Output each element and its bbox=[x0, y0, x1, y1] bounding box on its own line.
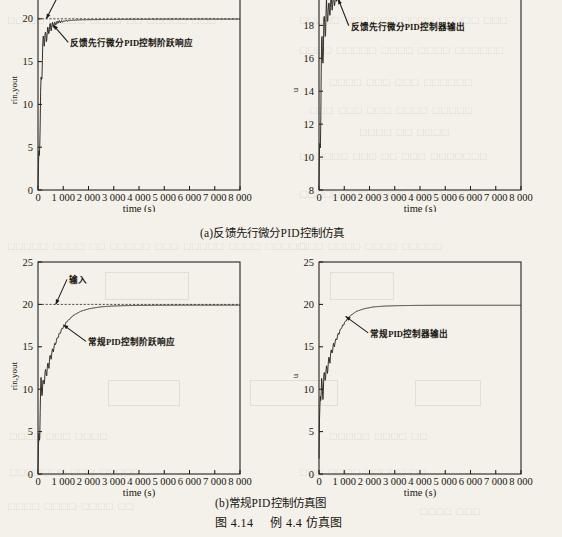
chart-a-right-svg: 8101214161820 01 0002 0003 0004 0005 000… bbox=[281, 0, 562, 212]
y-axis-ticks: 0510152025 bbox=[304, 257, 324, 480]
plot-frame bbox=[319, 262, 521, 474]
x-axis-label: time (s) bbox=[123, 203, 156, 212]
x-tick-label: 8 000 bbox=[228, 192, 252, 203]
x-tick-label: 2 000 bbox=[77, 476, 101, 487]
y-tick-label: 20 bbox=[304, 299, 315, 310]
y-axis-ticks: 0510152025 bbox=[23, 257, 43, 480]
x-tick-label: 0 bbox=[316, 476, 321, 487]
x-tick-label: 6 000 bbox=[459, 476, 483, 487]
x-axis-ticks: 01 0002 0003 0004 0005 0006 0007 0008 00… bbox=[316, 470, 532, 487]
x-tick-label: 6 000 bbox=[178, 476, 202, 487]
x-tick-label: 2 000 bbox=[77, 192, 101, 203]
y-tick-label: 0 bbox=[28, 185, 33, 196]
y-tick-label: 5 bbox=[28, 142, 33, 153]
y-tick-label: 12 bbox=[304, 119, 315, 130]
y-tick-label: 5 bbox=[28, 426, 33, 437]
x-tick-label: 4 000 bbox=[127, 476, 151, 487]
x-tick-label: 6 000 bbox=[178, 192, 202, 203]
x-axis-ticks: 01 0002 0003 0004 0005 0006 0007 0008 00… bbox=[35, 186, 251, 203]
y-axis-label: rin,yout bbox=[9, 361, 19, 390]
x-tick-label: 7 000 bbox=[203, 476, 227, 487]
x-tick-label: 2 000 bbox=[358, 192, 382, 203]
y-tick-label: 25 bbox=[304, 257, 315, 268]
figure-caption-text: 例 4.4 仿真图 bbox=[270, 516, 343, 530]
x-tick-label: 6 000 bbox=[459, 192, 483, 203]
series-step-response-line bbox=[38, 305, 240, 470]
y-tick-label: 18 bbox=[304, 20, 315, 31]
plot-frame bbox=[38, 0, 240, 190]
annotation-controller-output: 反馈先行微分PID控制器输出 bbox=[338, 0, 464, 32]
x-tick-label: 5 000 bbox=[152, 476, 176, 487]
chart-a-left-svg: 05101520 01 0002 0003 0004 0005 0006 000… bbox=[0, 0, 282, 212]
y-tick-label: 25 bbox=[23, 257, 34, 268]
chart-panel-a-right: 8101214161820 01 0002 0003 0004 0005 000… bbox=[281, 0, 562, 212]
y-axis-ticks: 8101214161820 bbox=[304, 0, 324, 196]
x-tick-label: 0 bbox=[316, 192, 321, 203]
y-tick-label: 10 bbox=[304, 384, 315, 395]
x-tick-label: 8 000 bbox=[509, 476, 533, 487]
subcaption-a: (a)反馈先行微分PID控制仿真 bbox=[200, 224, 345, 240]
chart-panel-b-left: 0510152025 01 0002 0003 0004 0005 0006 0… bbox=[0, 252, 282, 502]
y-axis-label: u bbox=[290, 87, 300, 92]
y-tick-label: 15 bbox=[23, 341, 34, 352]
y-tick-label: 20 bbox=[23, 13, 34, 24]
x-axis-ticks: 01 0002 0003 0004 0005 0006 0007 0008 00… bbox=[316, 186, 532, 203]
x-tick-label: 4 000 bbox=[127, 192, 151, 203]
plot-frame bbox=[38, 262, 240, 474]
y-tick-label: 15 bbox=[304, 341, 315, 352]
annotation-input: 输入 bbox=[56, 274, 87, 304]
x-axis-label: time (s) bbox=[404, 203, 437, 212]
x-tick-label: 4 000 bbox=[408, 192, 432, 203]
y-tick-label: 10 bbox=[23, 99, 34, 110]
y-tick-label: 16 bbox=[304, 53, 315, 64]
x-tick-label: 1 000 bbox=[332, 192, 356, 203]
x-axis-label: time (s) bbox=[404, 487, 437, 499]
x-tick-label: 0 bbox=[35, 192, 40, 203]
y-axis-label: u bbox=[290, 373, 300, 378]
x-tick-label: 7 000 bbox=[203, 192, 227, 203]
x-tick-label: 1 000 bbox=[51, 476, 75, 487]
annotation-label: 常规PID控制阶跃响应 bbox=[88, 336, 175, 347]
y-tick-label: 15 bbox=[23, 56, 34, 67]
x-tick-label: 5 000 bbox=[152, 192, 176, 203]
x-tick-label: 5 000 bbox=[433, 476, 457, 487]
x-tick-label: 0 bbox=[35, 476, 40, 487]
annotation-arrowhead bbox=[46, 13, 50, 18]
figure-caption-label: 图 4.14 bbox=[215, 516, 253, 530]
subcaption-b: (b)常规PID控制仿真图 bbox=[215, 494, 327, 510]
annotation-arrow bbox=[338, 0, 349, 26]
annotation-label: 输入 bbox=[69, 274, 87, 285]
y-tick-label: 10 bbox=[23, 384, 34, 395]
x-tick-label: 2 000 bbox=[358, 476, 382, 487]
x-axis-label: time (s) bbox=[123, 487, 156, 499]
figure-sheet: 05101520 01 0002 0003 0004 0005 0006 000… bbox=[0, 0, 562, 537]
annotation-step-response: 反馈先行微分PID控制阶跃响应 bbox=[53, 25, 193, 49]
annotation-controller-output: 常规PID控制器输出 bbox=[346, 316, 449, 339]
x-tick-label: 7 000 bbox=[484, 476, 508, 487]
chart-panel-b-right: 0510152025 01 0002 0003 0004 0005 0006 0… bbox=[281, 252, 562, 502]
annotation-label: 反馈先行微分PID控制阶跃响应 bbox=[70, 37, 193, 48]
y-tick-label: 8 bbox=[309, 185, 314, 196]
y-tick-label: 20 bbox=[23, 299, 34, 310]
annotation-label: 反馈先行微分PID控制器输出 bbox=[351, 21, 465, 32]
annotation-arrowhead bbox=[56, 299, 60, 304]
figure-caption: 图 4.14 例 4.4 仿真图 bbox=[215, 513, 343, 531]
x-tick-label: 3 000 bbox=[383, 476, 407, 487]
chart-b-left-svg: 0510152025 01 0002 0003 0004 0005 0006 0… bbox=[0, 252, 282, 502]
x-tick-label: 8 000 bbox=[509, 192, 533, 203]
y-tick-label: 5 bbox=[309, 426, 314, 437]
x-tick-label: 1 000 bbox=[51, 192, 75, 203]
y-tick-label: 0 bbox=[309, 469, 314, 480]
chart-panel-a-left: 05101520 01 0002 0003 0004 0005 0006 000… bbox=[0, 0, 282, 212]
y-axis-label: rin,yout bbox=[9, 75, 19, 104]
y-tick-label: 0 bbox=[28, 469, 33, 480]
x-axis-ticks: 01 0002 0003 0004 0005 0006 0007 0008 00… bbox=[35, 470, 251, 487]
x-tick-label: 7 000 bbox=[484, 192, 508, 203]
annotation-input: 输入 bbox=[46, 0, 82, 19]
x-tick-label: 3 000 bbox=[383, 192, 407, 203]
annotation-step-response: 常规PID控制阶跃响应 bbox=[63, 325, 175, 348]
x-tick-label: 3 000 bbox=[102, 192, 126, 203]
x-tick-label: 1 000 bbox=[332, 476, 356, 487]
y-tick-label: 10 bbox=[304, 152, 315, 163]
x-tick-label: 4 000 bbox=[408, 476, 432, 487]
